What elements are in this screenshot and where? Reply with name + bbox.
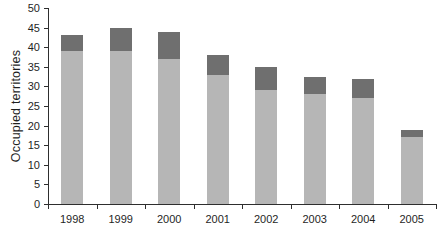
y-tick bbox=[44, 67, 48, 68]
stacked-bar-chart-figure: Occupied territories 0510152025303540455… bbox=[0, 0, 441, 230]
x-tick bbox=[242, 205, 243, 209]
x-tick bbox=[145, 205, 146, 209]
bar-segment-light-gray-segment bbox=[207, 75, 229, 204]
y-tick bbox=[44, 184, 48, 185]
bar-segment-dark-gray-segment bbox=[352, 79, 374, 99]
x-tick bbox=[48, 205, 49, 209]
x-tick-label: 1998 bbox=[48, 213, 96, 225]
x-tick-label: 2004 bbox=[339, 213, 387, 225]
x-tick-label: 1999 bbox=[97, 213, 145, 225]
x-tick-label: 2003 bbox=[291, 213, 339, 225]
y-tick-label: 15 bbox=[10, 139, 40, 151]
x-tick-label: 2005 bbox=[388, 213, 436, 225]
y-tick-label: 30 bbox=[10, 80, 40, 92]
bar-segment-dark-gray-segment bbox=[110, 28, 132, 52]
bar-segment-dark-gray-segment bbox=[207, 55, 229, 75]
bar-segment-light-gray-segment bbox=[304, 94, 326, 204]
x-tick-label: 2002 bbox=[242, 213, 290, 225]
bar-segment-dark-gray-segment bbox=[255, 67, 277, 91]
bar-segment-dark-gray-segment bbox=[61, 35, 83, 51]
y-tick bbox=[44, 8, 48, 9]
x-tick bbox=[97, 205, 98, 209]
y-axis-line bbox=[48, 8, 49, 205]
bar-segment-dark-gray-segment bbox=[304, 77, 326, 95]
y-tick bbox=[44, 47, 48, 48]
bar-segment-light-gray-segment bbox=[352, 98, 374, 204]
y-tick-label: 5 bbox=[10, 178, 40, 190]
bar-segment-light-gray-segment bbox=[255, 90, 277, 204]
y-tick bbox=[44, 145, 48, 146]
x-tick bbox=[194, 205, 195, 209]
y-tick-label: 45 bbox=[10, 22, 40, 34]
bar-segment-dark-gray-segment bbox=[401, 130, 423, 138]
y-tick bbox=[44, 165, 48, 166]
y-tick-label: 25 bbox=[10, 100, 40, 112]
y-tick bbox=[44, 106, 48, 107]
x-tick bbox=[388, 205, 389, 209]
y-tick-label: 20 bbox=[10, 120, 40, 132]
x-tick bbox=[291, 205, 292, 209]
y-tick-label: 35 bbox=[10, 61, 40, 73]
y-tick bbox=[44, 28, 48, 29]
y-tick-label: 0 bbox=[10, 198, 40, 210]
bar-segment-light-gray-segment bbox=[158, 59, 180, 204]
y-tick bbox=[44, 86, 48, 87]
bar-segment-dark-gray-segment bbox=[158, 32, 180, 59]
bar-segment-light-gray-segment bbox=[401, 137, 423, 204]
x-tick-label: 2000 bbox=[145, 213, 193, 225]
y-tick bbox=[44, 126, 48, 127]
x-tick bbox=[436, 205, 437, 209]
x-tick bbox=[339, 205, 340, 209]
y-tick-label: 10 bbox=[10, 159, 40, 171]
bar-segment-light-gray-segment bbox=[61, 51, 83, 204]
y-tick-label: 50 bbox=[10, 2, 40, 14]
y-tick-label: 40 bbox=[10, 41, 40, 53]
bar-segment-light-gray-segment bbox=[110, 51, 132, 204]
x-tick-label: 2001 bbox=[194, 213, 242, 225]
